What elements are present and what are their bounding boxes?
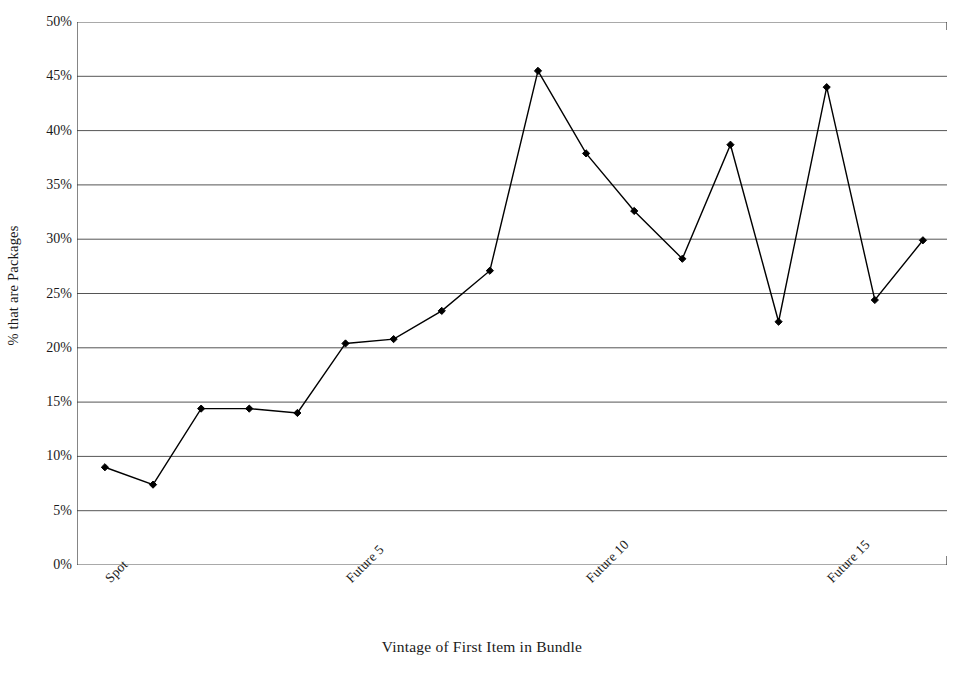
y-axis-tick-label: 35% bbox=[28, 178, 72, 192]
y-axis-tick-labels: 0%5%10%15%20%25%30%35%40%45%50% bbox=[20, 0, 72, 681]
y-axis-tick-label: 10% bbox=[28, 449, 72, 463]
x-axis-title-text: Vintage of First Item in Bundle bbox=[382, 638, 582, 655]
y-axis-tick-label: 30% bbox=[28, 232, 72, 246]
data-point-marker bbox=[101, 464, 108, 471]
plot-area bbox=[77, 22, 947, 565]
y-axis-tick-label: 20% bbox=[28, 341, 72, 355]
x-axis-title: Vintage of First Item in Bundle bbox=[0, 638, 964, 656]
y-axis-tick-label: 25% bbox=[28, 287, 72, 301]
y-axis-tick-label: 45% bbox=[28, 69, 72, 83]
data-point-marker bbox=[727, 141, 734, 148]
data-point-marker bbox=[534, 67, 541, 74]
data-line-series-1 bbox=[105, 71, 923, 485]
data-point-marker bbox=[149, 481, 156, 488]
chart-container: % that are Packages 0%5%10%15%20%25%30%3… bbox=[0, 0, 964, 681]
y-axis-tick-label: 5% bbox=[28, 504, 72, 518]
data-point-marker bbox=[775, 318, 782, 325]
data-point-marker bbox=[390, 336, 397, 343]
y-axis-tick-label: 50% bbox=[28, 15, 72, 29]
data-point-marker bbox=[198, 405, 205, 412]
data-point-marker bbox=[246, 405, 253, 412]
y-axis-title-text: % that are Packages bbox=[5, 225, 22, 345]
y-axis-tick-label: 40% bbox=[28, 124, 72, 138]
data-point-marker bbox=[823, 84, 830, 91]
gridlines-group bbox=[77, 22, 947, 565]
y-axis-tick-label: 15% bbox=[28, 395, 72, 409]
line-chart-svg bbox=[77, 22, 947, 565]
y-axis-tick-label: 0% bbox=[28, 558, 72, 572]
